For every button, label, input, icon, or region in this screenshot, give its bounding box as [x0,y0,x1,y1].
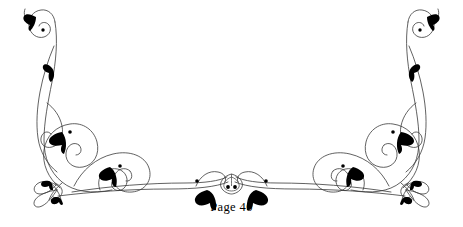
right-center-dot [264,179,268,183]
left-loop-dot [118,164,122,168]
center-dot-right [233,185,237,189]
left-lobe-dot [68,130,72,134]
right-loop-dot [341,164,345,168]
page-ornament-figure: Page 40 [0,0,463,227]
center-dot-left [226,185,230,189]
left-center-dot [195,179,199,183]
page-number-label: Page 40 [0,200,463,214]
right-spiral-dot [357,176,360,179]
page-background [0,0,463,227]
right-top-dot [418,28,421,31]
ornament-illustration [0,0,463,227]
right-lobe-dot [391,130,395,134]
left-spiral-dot [102,176,105,179]
left-top-dot [41,28,44,31]
